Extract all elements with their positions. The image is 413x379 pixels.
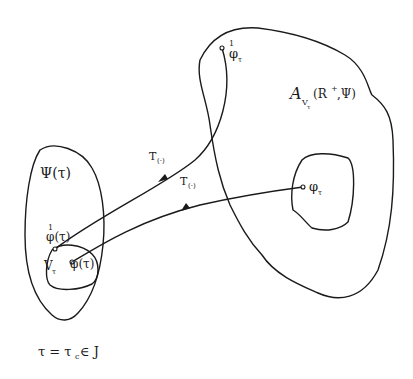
right-region-a (199, 28, 393, 298)
label-lower-t-sub: (·) (188, 182, 196, 190)
label-a-symbol: A (288, 84, 302, 103)
label-phi-dot-target: φ (229, 46, 238, 61)
label-a-subsubscript: τ (307, 103, 311, 110)
point-phi-dot-target (220, 46, 224, 50)
point-phi-target (301, 185, 305, 189)
lower-arrow-head (181, 203, 190, 211)
label-phi-dot-tau: φ(τ) (46, 230, 70, 244)
inner-right-region (292, 154, 354, 230)
label-a-args: (R (313, 87, 328, 101)
upper-arrow-head (158, 174, 168, 182)
label-phi-dot-target-sub: τ (238, 56, 242, 64)
label-upper-t: T (149, 150, 157, 163)
label-a-args-end: ,Ψ) (337, 87, 356, 101)
diagram-canvas: Ψ(τ) 1 φ(τ) V τ φ(τ) 1 φ τ φ τ A V τ (R … (0, 0, 413, 379)
point-phi-dot-tau (53, 247, 57, 251)
caption-rhs: ∈ J (80, 344, 99, 359)
label-phi-target: φ (309, 179, 318, 194)
label-phi-target-sub: τ (318, 189, 322, 197)
label-v-subscript: τ (52, 268, 56, 276)
label-psi-tau: Ψ(τ) (40, 165, 71, 181)
upper-trajectory (55, 48, 227, 249)
label-upper-t-sub: (·) (157, 157, 165, 165)
label-lower-t: T (180, 175, 188, 188)
caption-lhs: τ = τ (38, 344, 72, 359)
lower-trajectory (72, 187, 303, 262)
label-phi-tau: φ(τ) (70, 257, 94, 271)
